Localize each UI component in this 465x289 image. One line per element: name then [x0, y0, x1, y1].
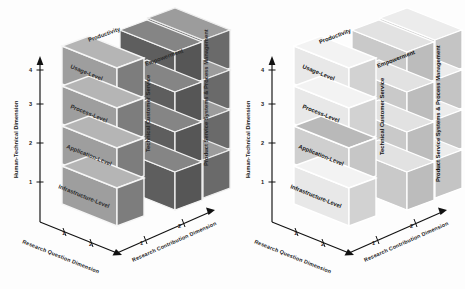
- z-tick-label-2: 2: [410, 223, 413, 229]
- x-axis-line: [40, 222, 117, 253]
- y-tick-label-4: 4: [261, 67, 265, 73]
- label-productivity: Productivity: [87, 26, 121, 43]
- left-panel-svg: Usage-Level Process-Level Application-Le…: [0, 0, 232, 289]
- y-axis-title: Human-Technical Dimension: [245, 101, 251, 178]
- label-technical-customer-service: Technical Customer Service: [145, 74, 151, 152]
- y-tick-label-3: 3: [261, 101, 264, 107]
- x-axis-line: [272, 222, 349, 253]
- y-tick-label-2: 2: [261, 140, 264, 146]
- y-tick-label-4: 4: [29, 67, 33, 73]
- label-product-service-systems: Product Service Systems & Process Manage…: [203, 29, 209, 166]
- y-tick-label-1: 1: [29, 179, 32, 185]
- y-axis-arrow: [269, 56, 276, 65]
- z-tick-label-1: 1: [372, 240, 375, 246]
- z-axis-arrow: [438, 208, 447, 216]
- x-tick-label-2: 2: [321, 241, 324, 247]
- left-panel: Usage-Level Process-Level Application-Le…: [0, 0, 232, 289]
- x-tick-label-2: 2: [89, 241, 92, 247]
- y-tick-label-3: 3: [29, 101, 32, 107]
- y-axis-title: Human-Technical Dimension: [13, 101, 19, 178]
- z-tick-label-2: 2: [178, 223, 181, 229]
- right-panel: Usage-Level Process-Level Application-Le…: [232, 0, 464, 289]
- label-product-service-systems: Product Service Systems & Process Manage…: [435, 45, 441, 182]
- right-panel-svg: Usage-Level Process-Level Application-Le…: [232, 0, 464, 289]
- x-tick-label-1: 1: [62, 230, 65, 236]
- y-tick-label-1: 1: [261, 179, 264, 185]
- y-axis-arrow: [37, 56, 44, 65]
- z-axis-arrow: [206, 208, 215, 216]
- x-tick-label-1: 1: [294, 230, 297, 236]
- z-tick-label-1: 1: [140, 240, 143, 246]
- y-tick-label-2: 2: [29, 140, 32, 146]
- label-technical-customer-service: Technical Customer Service: [379, 77, 385, 155]
